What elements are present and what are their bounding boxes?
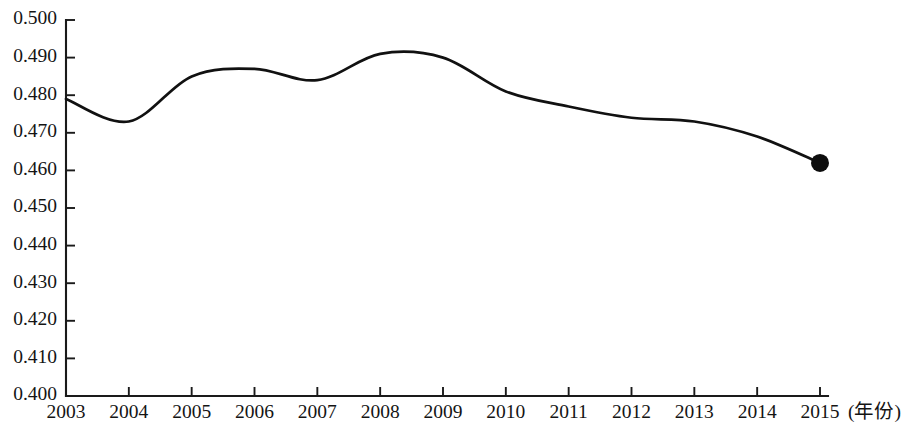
data-series-line — [66, 52, 820, 163]
y-axis-tick-labels: 0.5000.4900.4800.4700.4600.4500.4400.430… — [13, 7, 57, 404]
x-axis-tick-marks — [66, 387, 820, 396]
y-tick-label: 0.450 — [13, 195, 57, 216]
x-tick-label: 2012 — [612, 401, 651, 422]
x-tick-label: 2007 — [298, 401, 337, 422]
x-tick-label: 2011 — [550, 401, 588, 422]
x-tick-label: 2010 — [486, 401, 525, 422]
x-tick-label: 2014 — [738, 401, 777, 422]
y-tick-label: 0.440 — [13, 233, 57, 254]
y-tick-label: 0.500 — [13, 7, 57, 28]
x-axis-tick-labels: 2003200420052006200720082009201020112012… — [47, 401, 840, 422]
y-tick-label: 0.420 — [13, 308, 57, 329]
line-chart: 0.5000.4900.4800.4700.4600.4500.4400.430… — [0, 0, 910, 422]
endpoint-marker — [811, 154, 829, 172]
y-tick-label: 0.410 — [13, 346, 57, 367]
x-tick-label: 2008 — [361, 401, 400, 422]
x-tick-label: 2013 — [675, 401, 714, 422]
chart-canvas: 0.5000.4900.4800.4700.4600.4500.4400.430… — [0, 0, 910, 422]
y-tick-label: 0.490 — [13, 45, 57, 66]
y-axis-tick-marks — [66, 20, 75, 396]
x-tick-label: 2015 — [801, 401, 840, 422]
x-axis-unit-label: (年份) — [848, 401, 901, 422]
y-tick-label: 0.430 — [13, 271, 57, 292]
x-tick-label: 2003 — [47, 401, 86, 422]
x-tick-label: 2005 — [172, 401, 211, 422]
y-tick-label: 0.460 — [13, 158, 57, 179]
x-tick-label: 2004 — [109, 401, 148, 422]
y-tick-label: 0.470 — [13, 120, 57, 141]
x-tick-label: 2006 — [235, 401, 274, 422]
y-tick-label: 0.480 — [13, 83, 57, 104]
x-tick-label: 2009 — [424, 401, 463, 422]
